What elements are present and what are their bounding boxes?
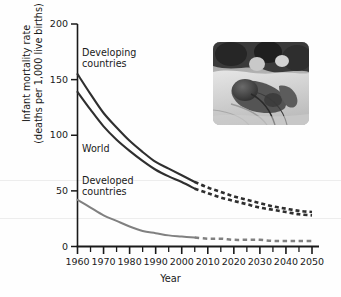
series-line-solid-2 xyxy=(78,200,195,238)
x-tick-label: 2000 xyxy=(170,257,194,267)
series-annotation-developing-line1: Developing xyxy=(82,47,136,58)
x-tick-label: 2010 xyxy=(196,257,220,267)
series-annotation-developing-countries: Developing countries xyxy=(82,47,136,70)
infant-mortality-figure: Infant mortality rate (deaths per 1,000 … xyxy=(0,0,341,297)
series-annotation-developed-line2: countries xyxy=(82,186,134,197)
x-axis-title: Year xyxy=(0,273,341,284)
y-tick-label: 0 xyxy=(30,242,68,252)
inset-photo-neonatal-care xyxy=(213,42,309,125)
y-tick-label: 150 xyxy=(30,75,68,85)
series-annotation-developed-line1: Developed xyxy=(82,175,134,186)
series-annotation-world-line1: World xyxy=(82,143,110,154)
series-annotation-developing-line2: countries xyxy=(82,58,136,69)
y-tick-label: 200 xyxy=(30,19,68,29)
x-tick-label: 2030 xyxy=(248,257,272,267)
x-tick-label: 1970 xyxy=(91,257,115,267)
y-tick-label: 50 xyxy=(30,186,68,196)
series-line-projected-0 xyxy=(195,182,312,212)
y-axis-ticks xyxy=(71,24,78,247)
series-line-projected-2 xyxy=(195,238,312,241)
x-tick-label: 2020 xyxy=(222,257,246,267)
x-tick-label: 2050 xyxy=(300,257,324,267)
inset-photo-graphic xyxy=(213,42,309,125)
series-line-solid-0 xyxy=(78,74,195,182)
x-tick-label: 2040 xyxy=(274,257,298,267)
series-annotation-developed-countries: Developed countries xyxy=(82,175,134,198)
series-line-projected-1 xyxy=(195,189,312,216)
x-axis-ticks xyxy=(78,247,313,255)
x-tick-label: 1960 xyxy=(65,257,89,267)
y-tick-label: 100 xyxy=(30,131,68,141)
x-tick-label: 1990 xyxy=(144,257,168,267)
x-tick-label: 1980 xyxy=(118,257,142,267)
series-annotation-world: World xyxy=(82,143,110,154)
